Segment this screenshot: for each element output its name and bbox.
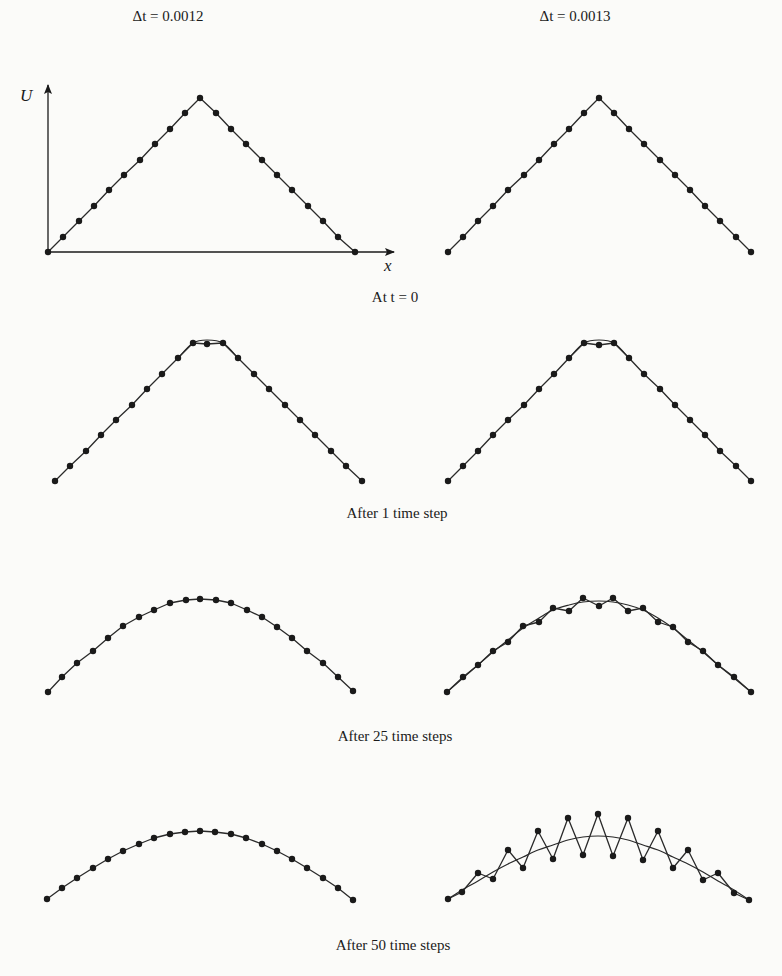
column-header-stable: Δt = 0.0012 (132, 8, 203, 25)
grid-point-marker (595, 811, 601, 817)
grid-point-marker (113, 417, 119, 423)
grid-point-marker (274, 848, 280, 854)
grid-point-marker (733, 234, 739, 240)
grid-point-marker (641, 371, 647, 377)
grid-point-marker (657, 157, 663, 163)
grid-point-marker (91, 203, 97, 209)
grid-point-marker (626, 126, 632, 132)
grid-point-marker (566, 608, 572, 614)
grid-point-marker (596, 95, 602, 101)
grid-point-marker (243, 835, 249, 841)
grid-point-marker (580, 595, 586, 601)
grid-point-marker (243, 141, 249, 147)
grid-point-marker (159, 371, 165, 377)
grid-point-marker (460, 463, 466, 469)
grid-point-marker (136, 841, 142, 847)
grid-point-marker (444, 689, 450, 695)
figure-canvas (0, 0, 782, 976)
grid-point-marker (475, 218, 481, 224)
grid-point-marker (610, 595, 616, 601)
grid-point-marker (731, 674, 737, 680)
grid-point-marker (459, 889, 465, 895)
grid-point-marker (610, 853, 616, 859)
grid-point-marker (748, 249, 754, 255)
grid-point-marker (655, 619, 661, 625)
grid-point-marker (297, 417, 303, 423)
grid-point-marker (748, 478, 754, 484)
grid-point-marker (566, 126, 572, 132)
grid-point-marker (490, 876, 496, 882)
grid-point-marker (626, 355, 632, 361)
grid-point-marker (475, 448, 481, 454)
grid-point-marker (640, 857, 646, 863)
grid-point-marker (475, 662, 481, 668)
numerical-solution-line-step25-stable (48, 599, 353, 692)
grid-point-marker (190, 340, 196, 346)
grid-point-marker (182, 110, 188, 116)
grid-point-marker (505, 187, 511, 193)
solution-lines (47, 98, 751, 900)
grid-point-marker (700, 648, 706, 654)
grid-point-marker (611, 110, 617, 116)
grid-point-marker (335, 234, 341, 240)
grid-point-marker (90, 865, 96, 871)
grid-point-marker (228, 126, 234, 132)
grid-point-marker (505, 417, 511, 423)
grid-point-marker (44, 896, 50, 902)
grid-point-marker (328, 448, 334, 454)
axes (48, 85, 394, 252)
grid-point-marker (460, 234, 466, 240)
grid-point-marker (520, 623, 526, 629)
grid-point-marker (685, 847, 691, 853)
grid-point-marker (289, 856, 295, 862)
caption-t0: At t = 0 (372, 289, 418, 306)
grid-point-marker (550, 856, 556, 862)
grid-point-marker (76, 218, 82, 224)
grid-point-marker (197, 95, 203, 101)
grid-point-marker (144, 386, 150, 392)
grid-point-marker (83, 448, 89, 454)
grid-point-marker (74, 875, 80, 881)
exact-solution-curve-step25-unstable (447, 601, 751, 692)
grid-point-marker (98, 432, 104, 438)
grid-point-marker (274, 624, 280, 630)
grid-point-marker (350, 688, 356, 694)
grid-point-marker (521, 172, 527, 178)
grid-point-marker (445, 896, 451, 902)
grid-point-marker (359, 478, 365, 484)
grid-point-marker (167, 126, 173, 132)
grid-point-marker (251, 371, 257, 377)
grid-point-marker (304, 648, 310, 654)
numerical-solution-line-step1-stable (55, 343, 362, 481)
grid-point-marker (136, 614, 142, 620)
grid-point-marker (445, 249, 451, 255)
grid-point-marker (335, 885, 341, 891)
grid-point-marker (670, 624, 676, 630)
grid-point-marker (289, 187, 295, 193)
grid-point-marker (715, 870, 721, 876)
grid-point-marker (687, 417, 693, 423)
grid-point-marker (536, 619, 542, 625)
grid-point-marker (59, 885, 65, 891)
numerical-solution-line-step1-unstable (448, 343, 751, 481)
grid-point-marker (74, 660, 80, 666)
grid-point-marker (550, 605, 556, 611)
grid-point-marker (151, 607, 157, 613)
numerical-solution-line-t0-stable (48, 98, 355, 252)
grid-point-marker (490, 432, 496, 438)
grid-point-marker (289, 635, 295, 641)
grid-point-marker (717, 448, 723, 454)
grid-point-marker (60, 234, 66, 240)
grid-point-marker (312, 432, 318, 438)
grid-point-marker (259, 841, 265, 847)
grid-point-marker (182, 829, 188, 835)
grid-point-marker (460, 674, 466, 680)
grid-point-marker (266, 386, 272, 392)
grid-point-marker (106, 187, 112, 193)
caption-step1: After 1 time step (346, 505, 447, 522)
grid-point-marker (120, 623, 126, 629)
grid-point-marker (475, 870, 481, 876)
grid-point-marker (581, 340, 587, 346)
grid-point-marker (335, 674, 341, 680)
grid-point-marker (197, 828, 203, 834)
